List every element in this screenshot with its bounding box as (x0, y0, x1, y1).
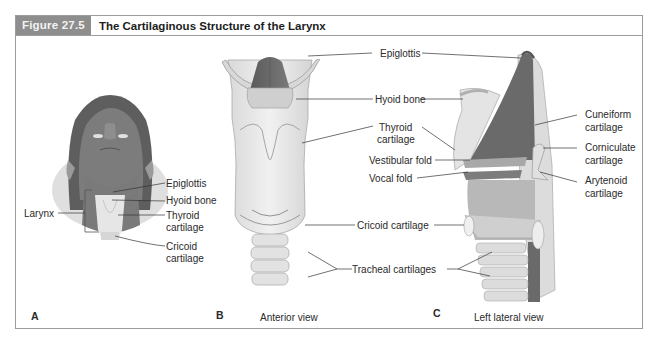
label-epiglottis: Epiglottis (380, 48, 421, 59)
panel-letter-a: A (31, 310, 39, 322)
label-thyroid-line1: Thyroid (379, 122, 412, 133)
label-cuneiform-line2: cartilage (585, 122, 623, 133)
lateral-larynx-illustration (417, 52, 577, 302)
label-a-cricoid-line2: cartilage (166, 253, 204, 264)
label-corniculate-line1: Corniculate (585, 142, 636, 153)
label-vestibular-fold: Vestibular fold (369, 155, 432, 166)
caption-anterior-view: Anterior view (260, 312, 318, 323)
label-hyoid-bone: Hyoid bone (375, 94, 426, 105)
label-tracheal-cartilages: Tracheal cartilages (352, 264, 436, 275)
label-cuneiform-line1: Cuneiform (585, 109, 631, 120)
panel-letter-b: B (216, 309, 224, 321)
caption-left-lateral-view: Left lateral view (474, 312, 543, 323)
label-a-cricoid-line1: Cricoid (166, 241, 197, 252)
label-a-larynx: Larynx (24, 208, 54, 219)
panel-letter-c: C (433, 307, 441, 319)
label-thyroid-line2: cartilage (377, 134, 415, 145)
larynx-illustrations (0, 0, 662, 347)
label-vocal-fold: Vocal fold (369, 173, 412, 184)
label-corniculate-line2: cartilage (585, 155, 623, 166)
label-a-epiglottis: Epiglottis (166, 178, 207, 189)
label-arytenoid-line2: cartilage (585, 188, 623, 199)
label-a-thyroid-line1: Thyroid (166, 210, 199, 221)
label-a-hyoid-bone: Hyoid bone (166, 195, 217, 206)
label-arytenoid-line1: Arytenoid (585, 175, 627, 186)
anterior-larynx-illustration (222, 53, 373, 285)
label-cricoid-cartilage: Cricoid cartilage (357, 220, 429, 231)
label-a-thyroid-line2: cartilage (166, 222, 204, 233)
head-illustration (52, 95, 168, 246)
